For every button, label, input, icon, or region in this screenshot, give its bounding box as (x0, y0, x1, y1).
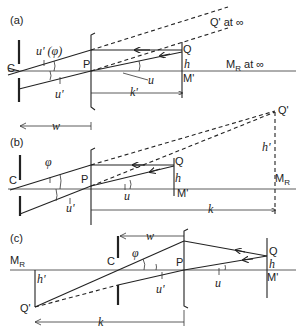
label-u-prime: u' (156, 282, 165, 296)
label-w: w (52, 119, 60, 133)
panel-b: w (b) C P Q h M' φ (8, 104, 296, 225)
panel-tag: (c) (10, 232, 23, 244)
label-h-prime: h' (262, 140, 271, 154)
label-M-R: MR (10, 254, 25, 269)
label-P: P (81, 173, 88, 185)
panel-tag: (b) (10, 136, 23, 148)
label-Q-prime: Q' at ∞ (210, 16, 244, 28)
label-u-prime: u' (55, 87, 64, 101)
label-w: w (146, 229, 154, 243)
label-C: C (7, 62, 15, 74)
lens (91, 148, 95, 225)
label-phi: φ (132, 246, 139, 260)
lens (91, 33, 95, 110)
label-Q: Q (269, 245, 278, 257)
label-h: h (184, 57, 190, 71)
label-Q: Q (175, 155, 184, 167)
label-k-prime: k' (130, 85, 138, 99)
label-h: h (269, 257, 275, 271)
label-M-prime: M' (177, 187, 188, 199)
label-P: P (176, 256, 183, 268)
label-Q-prime: Q' (20, 302, 31, 314)
label-Q: Q (183, 43, 192, 55)
label-M-prime: M' (267, 271, 278, 283)
label-Q-prime: Q' (278, 104, 289, 116)
label-u-prime-phi: u' (φ) (36, 44, 62, 58)
label-M-R: MR (275, 172, 290, 187)
label-u: u (124, 189, 130, 203)
ray-diagram: (a) C P Q h M' u' (φ) (0, 0, 302, 335)
label-h: h (175, 171, 181, 185)
panel-c: (c) w C P Q h (10, 229, 296, 329)
panel-a: (a) C P Q h M' u' (φ) (7, 7, 296, 110)
label-M-prime: M' (183, 72, 194, 84)
label-u-prime: u' (66, 201, 75, 215)
label-h-prime: h' (37, 272, 46, 286)
label-C: C (9, 174, 17, 186)
label-k: k (208, 202, 214, 216)
label-k: k (98, 315, 104, 329)
label-u: u (148, 73, 154, 87)
label-P: P (83, 58, 90, 70)
panel-tag: (a) (10, 14, 23, 26)
label-C: C (107, 255, 115, 267)
label-phi: φ (45, 155, 52, 169)
label-u: u (215, 276, 221, 290)
